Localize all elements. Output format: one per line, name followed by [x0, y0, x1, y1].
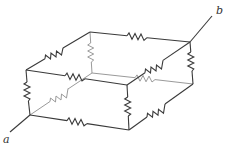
terminal-a-label: a	[3, 133, 10, 146]
terminal-b-label: b	[216, 4, 223, 17]
resistor-top-back	[90, 32, 190, 42]
resistor-bottom-front	[30, 115, 129, 130]
resistor-front-left-vertical	[24, 70, 30, 115]
resistor-bottom-left-depth	[30, 73, 92, 115]
resistor-top-right-depth	[127, 42, 190, 85]
resistor-bottom-right-depth	[129, 84, 193, 130]
hidden-edges	[30, 32, 193, 115]
resistor-front-right-vertical	[125, 85, 131, 130]
resistor-top-left-depth	[26, 32, 90, 70]
resistor-cube-diagram	[0, 0, 229, 152]
resistor-back-right-vertical	[188, 42, 194, 84]
visible-edges	[10, 16, 212, 132]
terminal-a-lead	[10, 115, 30, 132]
terminal-b-lead	[190, 16, 212, 42]
resistor-back-left-vertical	[88, 32, 94, 73]
